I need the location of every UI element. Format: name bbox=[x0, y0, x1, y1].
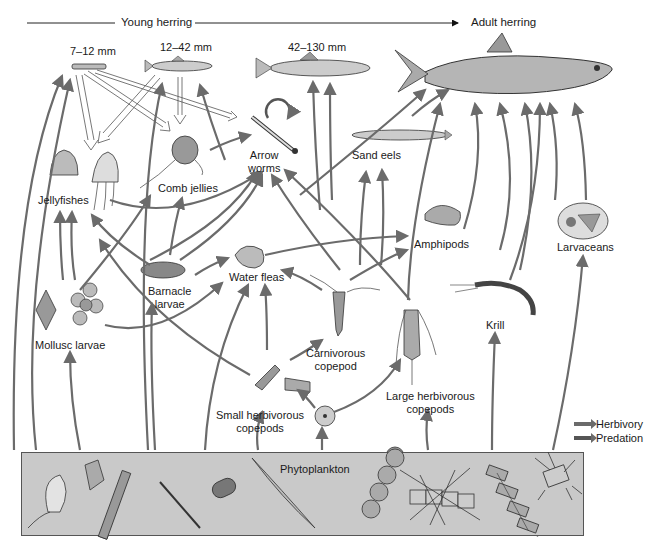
label-jellyfishes: Jellyfishes bbox=[38, 194, 89, 207]
label-carnivorous-copepod: Carnivorous copepod bbox=[306, 347, 365, 373]
label-sand-eels: Sand eels bbox=[352, 149, 401, 162]
adult-herring-title: Adult herring bbox=[468, 16, 539, 28]
legend: Herbivory Predation bbox=[574, 417, 643, 445]
label-krill: Krill bbox=[486, 319, 504, 332]
label-larvaceans: Larvaceans bbox=[557, 241, 614, 254]
stage-label-7-12mm: 7–12 mm bbox=[70, 45, 116, 58]
predation-arrow-icon bbox=[574, 436, 592, 440]
label-arrow-worms: Arrow worms bbox=[248, 149, 280, 175]
label-small-herbivorous-copepods: Small herbivorous copepods bbox=[216, 409, 304, 435]
legend-herbivory: Herbivory bbox=[574, 417, 643, 431]
label-phytoplankton: Phytoplankton bbox=[280, 463, 350, 476]
herbivory-arrow-icon bbox=[574, 422, 592, 426]
stage-label-42-130mm: 42–130 mm bbox=[288, 41, 346, 54]
legend-predation: Predation bbox=[574, 431, 643, 445]
label-barnacle-larvae: Barnacle larvae bbox=[148, 285, 191, 311]
legend-predation-label: Predation bbox=[596, 432, 643, 444]
label-water-fleas: Water fleas bbox=[229, 271, 284, 284]
label-amphipods: Amphipods bbox=[414, 238, 469, 251]
young-herring-title: Young herring bbox=[118, 16, 195, 28]
label-mollusc-larvae: Mollusc larvae bbox=[35, 339, 105, 352]
stage-label-12-42mm: 12–42 mm bbox=[160, 41, 212, 54]
label-large-herbivorous-copepods: Large herbivorous copepods bbox=[386, 390, 475, 416]
herring-food-web-diagram: Young herring Adult herring 7–12 mm 12–4… bbox=[0, 0, 655, 546]
label-comb-jellies: Comb jellies bbox=[158, 182, 218, 195]
legend-herbivory-label: Herbivory bbox=[596, 418, 643, 430]
